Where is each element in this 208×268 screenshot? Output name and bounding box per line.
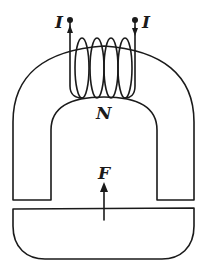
label-force: F [98, 165, 110, 182]
current-arrow-up-icon [67, 25, 73, 33]
current-arrow-down-icon [132, 28, 138, 36]
label-current-left: I [55, 14, 63, 31]
force-arrow-head-icon [100, 182, 108, 192]
electromagnet-diagram [0, 0, 208, 268]
label-current-right: I [142, 14, 150, 31]
label-turns: N [96, 105, 112, 122]
coil [70, 28, 135, 98]
